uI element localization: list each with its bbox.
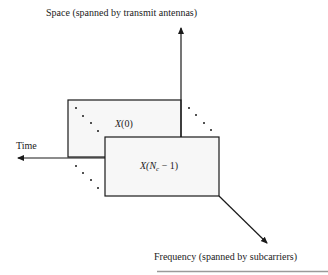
block-x0-label-arg: (0): [121, 118, 133, 129]
time-axis-label: Time: [16, 140, 37, 151]
ellipsis-dots-right: [188, 107, 212, 131]
frequency-axis-label: Frequency (spanned by subcarriers): [154, 251, 297, 262]
block-xnc-1-label: X(Nc − 1): [140, 160, 178, 173]
block-xnc-1-label-prefix: X(N: [140, 160, 156, 171]
block-xnc-1-label-suffix: − 1): [159, 160, 178, 171]
frequency-axis-arrow: [219, 196, 267, 243]
block-x0-label: X(0): [115, 118, 133, 129]
space-axis-label: Space (spanned by transmit antennas): [46, 7, 197, 18]
ellipsis-dots-lower-left: [75, 165, 99, 189]
ofdm-space-time-frequency-diagram: [0, 0, 328, 275]
